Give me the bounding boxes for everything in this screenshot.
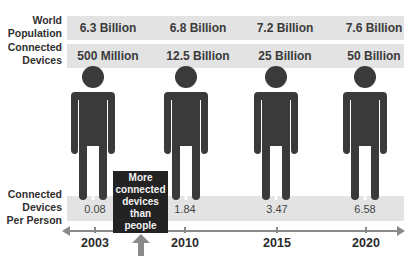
tick-2020	[365, 227, 367, 233]
callout-line: people	[113, 220, 168, 232]
year-2015: 2015	[247, 236, 307, 250]
tick-2003	[94, 227, 96, 233]
tick-2015	[276, 227, 278, 233]
devices-2010: 12.5 Billion	[153, 49, 243, 63]
callout-line: More	[113, 172, 168, 184]
label-line: Connected	[0, 188, 62, 201]
population-2003: 6.3 Billion	[63, 21, 153, 35]
population-2015: 7.2 Billion	[240, 21, 330, 35]
label-line: Connected	[0, 41, 62, 54]
label-line: Devices	[0, 54, 62, 67]
label-line: World	[0, 14, 62, 27]
label-line: Per Person	[0, 214, 62, 227]
year-2003: 2003	[65, 236, 125, 250]
callout-line: than	[113, 208, 168, 220]
crossover-callout: More connected devices than people	[113, 171, 168, 233]
tick-2010	[184, 227, 186, 233]
ratio-2015: 3.47	[232, 203, 322, 215]
person-icon	[343, 66, 387, 200]
person-icon	[164, 66, 208, 200]
callout-line: devices	[113, 196, 168, 208]
world-population-label: World Population	[0, 14, 62, 40]
label-line: Population	[0, 27, 62, 40]
devices-2020: 50 Billion	[329, 49, 418, 63]
year-2020: 2020	[336, 236, 396, 250]
arrow-up-icon	[132, 234, 150, 256]
year-2010: 2010	[155, 236, 215, 250]
devices-2015: 25 Billion	[240, 49, 330, 63]
population-2010: 6.8 Billion	[153, 21, 243, 35]
person-icon	[254, 66, 298, 200]
person-icon	[71, 66, 115, 200]
ratio-2020: 6.58	[320, 203, 410, 215]
population-2020: 7.6 Billion	[329, 21, 418, 35]
callout-line: connected	[113, 184, 168, 196]
connected-devices-label: Connected Devices	[0, 41, 62, 67]
devices-2003: 500 Million	[63, 49, 153, 63]
axis-arrow-right-icon	[397, 226, 405, 236]
